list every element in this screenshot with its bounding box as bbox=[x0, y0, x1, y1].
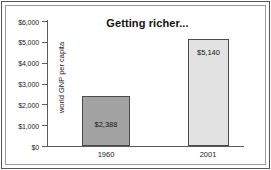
y-axis-tick: $6,000 bbox=[42, 21, 47, 22]
y-axis-tick-label: $1,000 bbox=[18, 122, 39, 129]
y-axis-tick-label: $6,000 bbox=[18, 18, 39, 25]
x-axis-label-1960: 1960 bbox=[76, 150, 136, 159]
bar-value-label: $5,140 bbox=[189, 48, 228, 57]
y-axis-tick-label: $2,000 bbox=[18, 101, 39, 108]
bar-2001: $5,140 bbox=[188, 39, 229, 146]
chart-figure: Getting richer... world GNP per capita $… bbox=[0, 0, 271, 170]
y-axis-tick: $5,000 bbox=[42, 42, 47, 43]
y-axis-tick-label: $5,000 bbox=[18, 39, 39, 46]
y-axis-tick: $4,000 bbox=[42, 63, 47, 64]
y-axis-title: world GNP per capita bbox=[57, 18, 66, 138]
y-axis-tick-label: $0 bbox=[31, 143, 39, 150]
x-axis-label-2001: 2001 bbox=[178, 150, 238, 159]
y-axis-tick: $1,000 bbox=[42, 125, 47, 126]
y-axis-tick: $0 bbox=[42, 146, 47, 147]
y-axis-tick-label: $4,000 bbox=[18, 60, 39, 67]
y-axis-tick: $3,000 bbox=[42, 84, 47, 85]
bar-value-label: $2,388 bbox=[83, 120, 129, 129]
y-axis-tick: $2,000 bbox=[42, 104, 47, 105]
x-axis-line bbox=[47, 146, 244, 147]
bar-1960: $2,388 bbox=[82, 96, 130, 146]
y-axis-tick-label: $3,000 bbox=[18, 81, 39, 88]
